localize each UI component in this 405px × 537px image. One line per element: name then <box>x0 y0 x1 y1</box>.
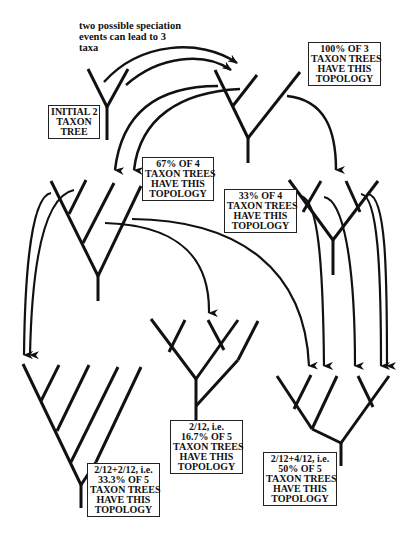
label-3-taxon-100pct: 100% OF 3 TAXON TREES HAVE THIS TOPOLOGY <box>308 42 381 86</box>
label-line: TOPOLOGY <box>266 494 334 504</box>
tree-5-taxon-mixed <box>151 319 258 422</box>
label-line: TOPOLOGY <box>90 505 157 515</box>
caption-line: two possible speciation <box>79 20 181 31</box>
arrows-4balanced-to-5balanced <box>301 194 387 366</box>
arrow-3taxon-to-4balanced <box>287 96 336 170</box>
label-initial-2-taxon: INITIAL 2 TAXON TREE <box>48 105 100 139</box>
arrow-4pectinate-to-5mixed <box>105 223 209 313</box>
caption-line: events can lead to 3 <box>79 31 181 42</box>
label-4-taxon-67pct: 67% OF 4 TAXON TREES HAVE THIS TOPOLOGY <box>142 157 214 201</box>
label-line: TOPOLOGY <box>227 221 294 231</box>
label-line: TOPOLOGY <box>311 74 378 84</box>
tree-3-taxon <box>215 70 300 163</box>
label-line: TOPOLOGY <box>145 189 211 199</box>
label-5-taxon-33pct: 2/12+2/12, i.e. 33.3% OF 5 TAXON TREES H… <box>87 463 160 517</box>
speciation-caption: two possible speciation events can lead … <box>79 20 181 53</box>
label-4-taxon-33pct: 33% OF 4 TAXON TREES HAVE THIS TOPOLOGY <box>224 189 297 233</box>
caption-line: taxa <box>79 42 181 53</box>
label-line: TOPOLOGY <box>173 462 240 472</box>
label-line: TREE <box>51 127 97 137</box>
tree-4-taxon-balanced <box>289 180 378 275</box>
tree-4-taxon-pectinate <box>51 180 141 301</box>
label-5-taxon-16pct: 2/12, i.e. 16.7% OF 5 TAXON TREES HAVE T… <box>170 420 243 474</box>
label-5-taxon-50pct: 2/12+4/12, i.e. 50% OF 5 TAXON TREES HAV… <box>263 452 337 506</box>
